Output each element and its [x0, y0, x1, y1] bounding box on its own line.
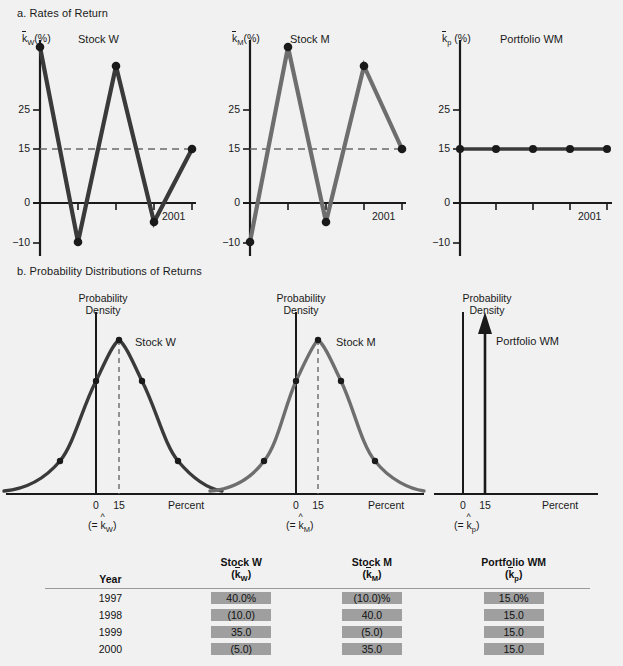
data-point-2001-portfolio-wm — [603, 145, 611, 153]
returns-table: Year Stock W (kW) Stock M (kM) Portfolio… — [45, 556, 590, 657]
table-cell-stock-w: 40.0% — [176, 589, 307, 607]
chart-rates-stock-m: kM(%) Stock M 25 15 0 −10 2001 — [210, 28, 420, 258]
y-axis-title-dist-stock-w: Probability Density — [58, 292, 148, 316]
series-label-dist-stock-m: Stock M — [336, 336, 376, 348]
table-cell-portfolio-wm: 15.0% — [437, 589, 590, 607]
highlight-box: 35.0 — [342, 643, 402, 655]
table-cell-stock-m: (10.0)% — [307, 589, 438, 607]
x-tick-15-dist-stock-m: 15 — [309, 499, 327, 511]
highlight-box: (5.0) — [211, 643, 271, 655]
table-cell-portfolio-wm: 15.0 — [437, 640, 590, 657]
highlight-box: 15.0 — [484, 643, 544, 655]
table-cell-stock-w: (10.0) — [176, 606, 307, 623]
table-cell-portfolio-wm: 15.0 — [437, 623, 590, 640]
y-tick-0-stock-m: 0 — [214, 196, 240, 208]
curve-point-right-tail-stock-m — [372, 458, 378, 464]
x-axis-end-year-stock-m: 2001 — [372, 210, 395, 222]
table-cell-stock-m: 40.0 — [307, 606, 438, 623]
table-cell-year: 1999 — [45, 623, 176, 640]
curve-point-left-tail-stock-m — [261, 458, 267, 464]
plot-area-stock-w — [0, 28, 210, 258]
table-cell-portfolio-wm: 15.0 — [437, 606, 590, 623]
y-tick-15-stock-m: 15 — [214, 142, 240, 154]
plot-area-portfolio-wm — [420, 28, 623, 258]
chart-distribution-portfolio-wm: Probability Density Portfolio WM 0 15 Pe… — [420, 288, 623, 543]
chart-rates-portfolio-wm: kp (%) Portfolio WM 25 15 0 −10 2001 — [420, 28, 623, 258]
data-point-1998-stock-w — [74, 238, 83, 247]
table-cell-stock-m: (5.0) — [307, 623, 438, 640]
highlight-box: (5.0) — [342, 626, 402, 638]
table-header-stock-w: Stock W (kW) — [176, 556, 307, 588]
data-point-1997-stock-m — [246, 238, 255, 247]
data-point-1997-portfolio-wm — [456, 145, 464, 153]
curve-point-right-mid-stock-w — [139, 378, 145, 384]
x-axis-end-year-portfolio-wm: 2001 — [578, 210, 601, 222]
table-cell-year: 1997 — [45, 589, 176, 607]
x-tick-0-dist-stock-w: 0 — [89, 499, 103, 511]
plot-area-stock-m — [210, 28, 420, 258]
section-heading-probability-distributions: b. Probability Distributions of Returns — [17, 265, 202, 277]
y-tick-0-stock-w: 0 — [4, 196, 30, 208]
table-header-portfolio-wm: Portfolio WM (kp) — [437, 556, 590, 588]
y-axis-title-dist-portfolio-wm: Probability Density — [442, 292, 532, 316]
curve-point-left-tail-stock-w — [57, 458, 63, 464]
highlight-box: 15.0 — [484, 609, 544, 621]
table-cell-year: 2000 — [45, 640, 176, 657]
highlight-box: 40.0 — [342, 609, 402, 621]
y-tick-neg10-stock-m: −10 — [210, 236, 240, 248]
highlight-box: 35.0 — [211, 626, 271, 638]
data-point-1999-portfolio-wm — [529, 145, 537, 153]
y-tick-15-stock-w: 15 — [4, 142, 30, 154]
x-tick-15-dist-portfolio-wm: 15 — [476, 499, 494, 511]
curve-point-peak-stock-m — [315, 337, 321, 343]
table-row: 199935.0(5.0)15.0 — [45, 623, 590, 640]
series-label-dist-stock-w: Stock W — [135, 336, 176, 348]
mean-annotation-dist-stock-m: (= ^kM) — [286, 519, 314, 534]
table-row: 1998(10.0)40.015.0 — [45, 606, 590, 623]
table-cell-stock-w: 35.0 — [176, 623, 307, 640]
table-header-year: Year — [45, 556, 176, 588]
data-point-1999-stock-w — [112, 62, 121, 71]
table-row: 2000(5.0)35.015.0 — [45, 640, 590, 657]
data-point-2000-portfolio-wm — [566, 145, 574, 153]
x-tick-0-dist-portfolio-wm: 0 — [456, 499, 470, 511]
table-header-stock-m: Stock M (kM) — [307, 556, 438, 588]
figure-root: a. Rates of Return kW(%) Stock W 25 15 0… — [0, 0, 623, 666]
x-tick-15-dist-stock-w: 15 — [110, 499, 128, 511]
y-axis-label-stock-w: kW(%) — [22, 32, 51, 47]
y-tick-neg10-portfolio-wm: −10 — [420, 236, 450, 248]
highlight-box: (10.0)% — [342, 592, 402, 604]
bell-curve-stock-w — [4, 340, 222, 491]
x-tick-0-dist-stock-m: 0 — [289, 499, 303, 511]
y-axis-label-portfolio-wm: kp (%) — [442, 32, 471, 47]
y-tick-15-portfolio-wm: 15 — [424, 142, 450, 154]
chart-title-stock-m: Stock M — [290, 33, 330, 45]
y-tick-25-portfolio-wm: 25 — [424, 103, 450, 115]
x-axis-label-dist-portfolio-wm: Percent — [542, 499, 598, 511]
curve-point-left-mid-stock-m — [293, 378, 299, 384]
y-axis-label-stock-m: kM(%) — [232, 32, 260, 47]
highlight-box: 40.0% — [211, 592, 271, 604]
highlight-box: (10.0) — [211, 609, 271, 621]
table-cell-year: 1998 — [45, 606, 176, 623]
x-axis-end-year-stock-w: 2001 — [162, 210, 185, 222]
y-tick-0-portfolio-wm: 0 — [424, 196, 450, 208]
highlight-box: 15.0 — [484, 626, 544, 638]
curve-point-peak-stock-w — [116, 337, 122, 343]
y-tick-neg10-stock-w: −10 — [0, 236, 30, 248]
table-cell-stock-w: (5.0) — [176, 640, 307, 657]
curve-point-right-mid-stock-m — [338, 378, 344, 384]
series-label-dist-portfolio-wm: Portfolio WM — [496, 335, 559, 347]
data-point-2001-stock-w — [188, 145, 197, 154]
mean-annotation-dist-stock-w: (= ^kW) — [88, 519, 116, 534]
x-axis-label-dist-stock-m: Percent — [368, 499, 424, 511]
y-tick-25-stock-m: 25 — [214, 103, 240, 115]
y-tick-25-stock-w: 25 — [4, 103, 30, 115]
chart-title-portfolio-wm: Portfolio WM — [500, 33, 563, 45]
data-point-2000-stock-w — [150, 218, 159, 227]
table-cell-stock-m: 35.0 — [307, 640, 438, 657]
highlight-box: 15.0% — [484, 592, 544, 604]
data-point-2001-stock-m — [398, 145, 407, 154]
curve-point-right-tail-stock-w — [175, 458, 181, 464]
y-axis-title-dist-stock-m: Probability Density — [256, 292, 346, 316]
